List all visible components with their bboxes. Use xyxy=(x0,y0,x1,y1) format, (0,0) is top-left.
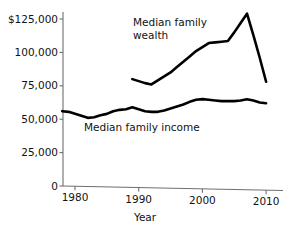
y-axis-tick-4: 25,000 xyxy=(0,147,58,158)
series-label-median-family-income: Median family income xyxy=(84,121,200,133)
y-axis-tick-label: $125,000 xyxy=(0,14,58,25)
y-axis-tick-label: 50,000 xyxy=(0,114,58,125)
x-axis-tick-label: 1980 xyxy=(53,191,97,204)
x-axis-tick-0: 1980 xyxy=(53,191,97,204)
x-axis-tick-label: 2010 xyxy=(244,195,288,208)
y-axis-tick-3: 50,000 xyxy=(0,114,58,125)
y-axis-tick-0: $125,000 xyxy=(0,14,58,25)
y-axis-tick-1: 100,000 xyxy=(0,47,58,58)
y-axis-tick-5: 0 xyxy=(0,181,58,192)
x-axis-title: Year xyxy=(0,211,290,223)
y-axis-tick-label: 25,000 xyxy=(0,147,58,158)
chart-container: $125,000 100,000 75,000 50,000 25,000 0 … xyxy=(0,0,290,235)
y-axis-tick-label: 100,000 xyxy=(0,47,58,58)
series-label-median-family-wealth: Median family wealth xyxy=(133,16,207,41)
x-axis-tick-1: 1990 xyxy=(117,193,161,206)
y-axis-tick-2: 75,000 xyxy=(0,80,58,91)
x-axis-tick-2: 2000 xyxy=(180,194,224,207)
y-axis-tick-label: 0 xyxy=(0,181,58,192)
x-axis-tick-label: 2000 xyxy=(180,194,224,207)
x-axis-tick-label: 1990 xyxy=(117,193,161,206)
y-axis-tick-label: 75,000 xyxy=(0,80,58,91)
x-axis-tick-3: 2010 xyxy=(244,195,288,208)
